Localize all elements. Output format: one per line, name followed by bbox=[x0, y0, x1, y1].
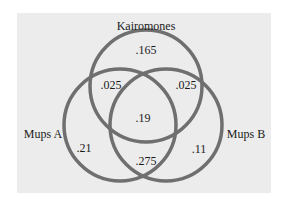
kairomones-label: Kairomones bbox=[117, 19, 176, 34]
region-kairomones-mups-a: .025 bbox=[101, 78, 122, 93]
mups-a-label: Mups A bbox=[24, 127, 62, 142]
region-mups-a-mups-b: .275 bbox=[136, 154, 157, 169]
region-kairomones-only: .165 bbox=[136, 43, 157, 58]
region-mups-b-only: .11 bbox=[192, 142, 207, 157]
region-kairomones-mups-b: .025 bbox=[176, 78, 197, 93]
mups-b-label: Mups B bbox=[227, 127, 265, 142]
region-mups-a-only: .21 bbox=[77, 141, 92, 156]
mups-b-circle bbox=[110, 69, 222, 181]
region-all-three: .19 bbox=[136, 111, 151, 126]
